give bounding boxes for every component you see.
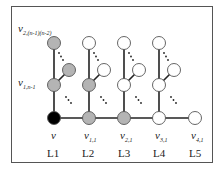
vertex-label-v41: v4,1 xyxy=(191,129,203,143)
nodes-group xyxy=(48,37,202,125)
node-base-l1 xyxy=(48,112,61,125)
ellipsis-dot xyxy=(65,96,67,98)
node-top-l1 xyxy=(48,37,61,50)
ellipsis-dot xyxy=(105,102,107,104)
level-label-l5: L5 xyxy=(189,147,202,159)
node-mid-l3 xyxy=(118,79,131,92)
ellipsis-upper-l3 xyxy=(128,52,134,61)
ellipsis-dot xyxy=(62,59,64,61)
node-base-l3 xyxy=(118,112,131,125)
ellipsis-dot xyxy=(175,102,177,104)
vertex-label-v21: v2,1 xyxy=(120,129,132,143)
ellipsis-upper-l4 xyxy=(163,52,169,61)
ellipsis-dot xyxy=(132,59,134,61)
node-side-l3 xyxy=(133,64,146,77)
node-side-l2 xyxy=(98,64,111,77)
ellipsis-dot xyxy=(135,96,137,98)
node-mid-l2 xyxy=(83,79,96,92)
node-base-l5 xyxy=(189,112,202,125)
label-mid-left: v1,n-1 xyxy=(18,76,35,90)
ellipsis-dot xyxy=(60,56,62,58)
ellipsis-dot xyxy=(128,52,130,54)
ellipsis-dot xyxy=(70,102,72,104)
node-mid-l1 xyxy=(48,79,61,92)
ellipsis-dot xyxy=(95,56,97,58)
ellipsis-dot xyxy=(167,59,169,61)
vertex-label-v11: v1,1 xyxy=(84,129,96,143)
ellipsis-lower-l3 xyxy=(135,96,142,104)
ellipsis-dot xyxy=(130,56,132,58)
ellipsis-upper-l1 xyxy=(58,52,64,61)
ellipsis-lower-l1 xyxy=(65,96,72,104)
node-side-l1 xyxy=(63,64,76,77)
level-label-l3: L3 xyxy=(118,147,131,159)
node-top-l3 xyxy=(118,37,131,50)
ellipsis-dot xyxy=(58,52,60,54)
level-labels: L1 L2 L3 L4 L5 xyxy=(47,147,202,159)
level-label-l4: L4 xyxy=(153,147,166,159)
level-label-l1: L1 xyxy=(47,147,59,159)
vertex-label-v31: v3,1 xyxy=(155,129,167,143)
node-side-l4 xyxy=(168,64,181,77)
ellipsis-dot xyxy=(103,99,105,101)
ellipsis-dot xyxy=(165,56,167,58)
ellipsis-dot xyxy=(163,52,165,54)
ellipsis-lower-l4 xyxy=(170,96,177,104)
ellipsis-dot xyxy=(170,96,172,98)
ellipsis-dot xyxy=(97,59,99,61)
ellipsis-dot xyxy=(140,102,142,104)
label-top-left: v2,(n-1)(n-2) xyxy=(18,22,51,37)
ellipsis-upper-l2 xyxy=(93,52,99,61)
level-label-l2: L2 xyxy=(82,147,94,159)
diagram-canvas: v2,(n-1)(n-2) v1,n-1 v v1,1 v2,1 v3,1 v4… xyxy=(0,0,219,174)
ellipsis-dot xyxy=(173,99,175,101)
ellipsis-dot xyxy=(100,96,102,98)
node-base-l2 xyxy=(83,112,96,125)
vertex-label-v: v xyxy=(51,129,56,141)
node-mid-l4 xyxy=(153,79,166,92)
node-top-l2 xyxy=(83,37,96,50)
node-top-l4 xyxy=(153,37,166,50)
ellipsis-dot xyxy=(68,99,70,101)
vertex-labels: v v1,1 v2,1 v3,1 v4,1 xyxy=(51,129,203,143)
node-base-l4 xyxy=(153,112,166,125)
ellipsis-lower-l2 xyxy=(100,96,107,104)
ellipsis-dot xyxy=(93,52,95,54)
ellipsis-dot xyxy=(138,99,140,101)
